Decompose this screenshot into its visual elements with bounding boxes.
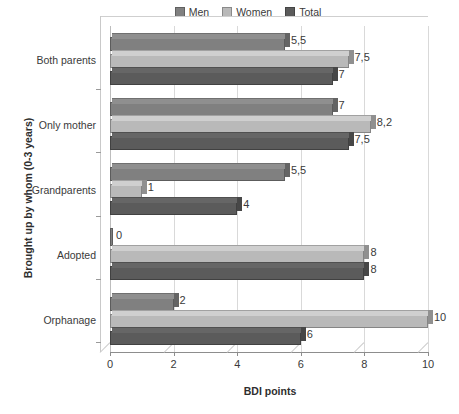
bar-women-adopted[interactable] <box>110 249 364 263</box>
bar-top-face <box>112 67 335 73</box>
x-axis-tick <box>301 352 302 356</box>
bar-women-only-mother[interactable] <box>110 119 371 133</box>
bar-side-face <box>333 67 338 81</box>
bar-top-face <box>112 245 366 251</box>
y-axis-tick <box>96 152 101 153</box>
bar-top-face <box>112 262 366 268</box>
y-axis-tick <box>96 216 101 217</box>
x-axis-line <box>110 352 428 353</box>
bar-men-adopted[interactable] <box>110 228 113 246</box>
bar-men-grandparents[interactable] <box>110 167 285 181</box>
x-gridline <box>364 26 365 352</box>
bar-value-label: 5,5 <box>291 165 306 176</box>
bar-top-face <box>112 197 239 203</box>
bar-women-grandparents[interactable] <box>110 184 142 198</box>
bar-value-label: 7 <box>339 69 345 80</box>
bar-value-label: 8 <box>370 247 376 258</box>
x-axis-title: BDI points <box>110 385 430 397</box>
bar-top-face <box>112 327 303 333</box>
x-axis-tick <box>110 352 111 356</box>
bar-side-face <box>364 262 369 276</box>
plot-depth-top-edge <box>100 16 428 17</box>
bar-women-both-parents[interactable] <box>110 54 349 68</box>
bar-side-face <box>428 310 433 324</box>
bar-chart: MenWomenTotal Brought up by whom (0-3 ye… <box>0 0 459 414</box>
bar-value-label: 6 <box>307 329 313 340</box>
x-axis-tick <box>428 352 429 356</box>
bar-women-orphanage[interactable] <box>110 314 428 328</box>
y-axis-category-label: Adopted <box>0 250 96 261</box>
y-axis-tick <box>96 342 101 343</box>
y-axis-category-label: Orphanage <box>0 315 96 326</box>
bar-side-face <box>349 132 354 146</box>
x-axis-tick-label: 2 <box>159 358 189 370</box>
bar-top-face <box>112 310 430 316</box>
bar-top-face <box>112 180 144 186</box>
x-axis-tick-label: 10 <box>413 358 443 370</box>
bar-total-grandparents[interactable] <box>110 201 237 215</box>
chart-legend: MenWomenTotal <box>148 4 348 20</box>
x-axis-tick <box>237 352 238 356</box>
bar-side-face <box>364 245 369 259</box>
bar-top-face <box>112 50 351 56</box>
bar-side-face <box>301 327 306 341</box>
bar-top-face <box>112 33 287 39</box>
bar-side-face <box>285 163 290 177</box>
bar-value-label: 7,5 <box>355 134 370 145</box>
bar-total-orphanage[interactable] <box>110 331 301 345</box>
bar-top-face <box>112 132 351 138</box>
x-axis-tick-label: 4 <box>222 358 252 370</box>
x-axis-tick <box>364 352 365 356</box>
bar-top-face <box>112 163 287 169</box>
bar-total-both-parents[interactable] <box>110 71 333 85</box>
x-gridline <box>428 26 429 352</box>
x-axis-tick-label: 6 <box>286 358 316 370</box>
bar-value-label: 7 <box>339 100 345 111</box>
bar-value-label: 5,5 <box>291 35 306 46</box>
plot-depth-left-wall <box>100 16 110 352</box>
bar-value-label: 0 <box>116 230 122 241</box>
bar-value-label: 10 <box>434 312 446 323</box>
bar-top-face <box>112 293 176 299</box>
y-axis-category-label: Both parents <box>0 55 96 66</box>
y-axis-title: Brought up by whom (0-3 years) <box>22 78 34 318</box>
bar-top-face <box>112 115 373 121</box>
y-axis-tick <box>96 279 101 280</box>
bar-value-label: 8,2 <box>377 117 392 128</box>
bar-side-face <box>174 293 179 307</box>
x-axis-tick <box>174 352 175 356</box>
bar-side-face <box>285 33 290 47</box>
y-axis-category-label: Grandparents <box>0 185 96 196</box>
bar-value-label: 4 <box>243 199 249 210</box>
bar-side-face <box>371 115 376 129</box>
x-axis-tick-label: 0 <box>95 358 125 370</box>
bar-side-face <box>142 180 147 194</box>
bar-total-only-mother[interactable] <box>110 136 349 150</box>
bar-value-label: 2 <box>180 295 186 306</box>
bar-value-label: 7,5 <box>355 52 370 63</box>
bar-value-label: 1 <box>148 182 154 193</box>
bar-top-face <box>112 98 335 104</box>
bar-side-face <box>333 98 338 112</box>
y-axis-category-label: Only mother <box>0 120 96 131</box>
bar-men-only-mother[interactable] <box>110 102 333 116</box>
x-axis-tick-label: 8 <box>349 358 379 370</box>
bar-total-adopted[interactable] <box>110 266 364 280</box>
bar-value-label: 8 <box>370 264 376 275</box>
bar-men-both-parents[interactable] <box>110 37 285 51</box>
bar-side-face <box>237 197 242 211</box>
bar-men-orphanage[interactable] <box>110 297 174 311</box>
y-axis-tick <box>96 89 101 90</box>
bar-side-face <box>349 50 354 64</box>
